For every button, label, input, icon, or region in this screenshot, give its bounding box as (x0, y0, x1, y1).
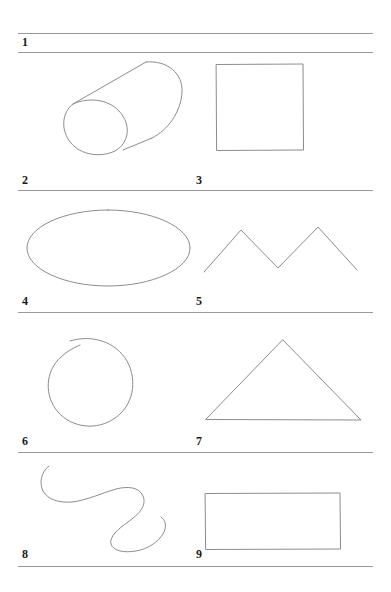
zigzag-polyline (204, 227, 357, 272)
zigzag-sketch (204, 227, 357, 272)
ellipse-sketch (27, 210, 190, 286)
label-6: 6 (22, 435, 28, 447)
label-9: 9 (196, 548, 202, 560)
circle-sketch (48, 338, 133, 426)
rule-row-1 (18, 190, 373, 191)
rectangle-outline (206, 493, 341, 550)
squiggle-path (41, 466, 165, 552)
triangle-sketch (206, 340, 361, 420)
label-5: 5 (196, 295, 202, 307)
square-outline (217, 64, 304, 151)
circle-outline (48, 338, 133, 426)
rule-row-4 (18, 566, 373, 567)
ellipse-outline (27, 210, 190, 286)
cylinder-sketch (64, 62, 182, 155)
label-1: 1 (22, 36, 28, 48)
rule-row-2 (18, 312, 373, 313)
rule-top (18, 33, 373, 34)
document-page: 1 2 3 4 5 6 7 8 9 (0, 0, 391, 592)
cylinder-right-cap (146, 62, 182, 138)
triangle-outline (206, 340, 361, 420)
squiggle-sketch (41, 466, 165, 552)
rule-row-3 (18, 452, 373, 453)
label-8: 8 (22, 548, 28, 560)
label-4: 4 (22, 295, 28, 307)
square-sketch (217, 64, 304, 151)
rectangle-sketch (206, 493, 341, 550)
cylinder-left-circle (64, 100, 128, 155)
cylinder-bottom-edge (123, 138, 152, 150)
label-7: 7 (196, 435, 202, 447)
label-2: 2 (22, 174, 28, 186)
label-3: 3 (196, 174, 202, 186)
rule-under-row-header (18, 52, 373, 53)
cylinder-top-edge (73, 62, 146, 104)
